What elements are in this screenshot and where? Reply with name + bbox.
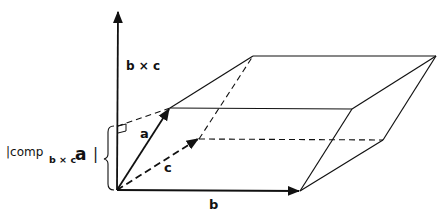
component-vector: a xyxy=(75,144,86,164)
vector-b xyxy=(117,190,299,191)
component-brace xyxy=(104,126,114,190)
vector-a xyxy=(117,109,169,190)
component-prefix: |comp xyxy=(6,145,43,159)
vector-b-label: b xyxy=(209,197,218,212)
parallelepiped-solid-edges xyxy=(170,56,436,191)
cross-product-axis xyxy=(117,12,118,190)
parallelepiped-diagram: b × c a b c |comp b × c a | xyxy=(0,0,441,221)
vector-c xyxy=(117,139,198,190)
component-label: |comp b × c a | xyxy=(6,144,98,165)
component-suffix: | xyxy=(93,145,98,163)
vector-a-label: a xyxy=(140,126,149,141)
vector-c-label: c xyxy=(164,160,172,175)
right-angle-marker xyxy=(118,124,126,133)
axis-label: b × c xyxy=(126,59,160,73)
component-subscript: b × c xyxy=(49,154,76,165)
